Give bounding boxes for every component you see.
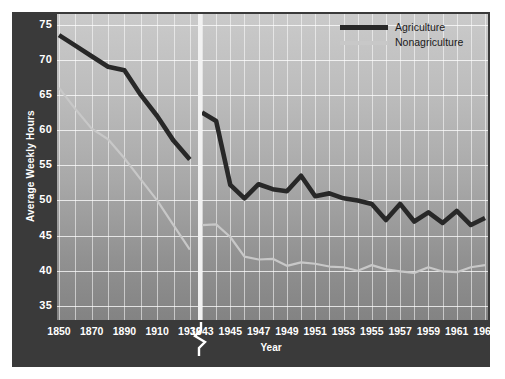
- x-axis-label: Year: [261, 342, 282, 353]
- series-line-agriculture: [202, 112, 485, 225]
- series-lines: [57, 14, 488, 320]
- y-tick-label: 65: [12, 89, 52, 100]
- chart-figure-frame: 354045505560657075 Average Weekly Hours …: [12, 12, 490, 367]
- x-tick-label: 1957: [385, 326, 415, 337]
- y-tick-label: 70: [12, 54, 52, 65]
- y-axis-label: Average Weekly Hours: [25, 110, 36, 222]
- chart-legend: AgricultureNonagriculture: [340, 22, 463, 52]
- x-tick-label: 1961: [442, 326, 472, 337]
- axis-break-zigzag-icon: [190, 322, 212, 356]
- legend-swatch-agriculture: [340, 25, 388, 30]
- y-tick-label: 35: [12, 300, 52, 311]
- x-tick-label: 1945: [215, 326, 245, 337]
- x-tick-label: 1963: [470, 326, 500, 337]
- chart-screenshot: 354045505560657075 Average Weekly Hours …: [0, 0, 505, 379]
- x-tick-label: 1955: [357, 326, 387, 337]
- legend-swatch-nonagriculture: [340, 41, 388, 45]
- series-line-nonagriculture: [202, 224, 485, 273]
- x-tick-label: 1910: [142, 326, 172, 337]
- y-tick-label: 40: [12, 265, 52, 276]
- legend-label: Agriculture: [395, 22, 445, 33]
- y-tick-label: 45: [12, 230, 52, 241]
- x-tick-label: 1890: [109, 326, 139, 337]
- x-tick-label: 1959: [413, 326, 443, 337]
- zigzag-break-path: [195, 322, 205, 356]
- x-tick-label: 1850: [44, 326, 74, 337]
- x-tick-label: 1947: [244, 326, 274, 337]
- series-line-nonagriculture: [59, 88, 190, 250]
- series-line-agriculture: [59, 35, 190, 160]
- legend-item: Nonagriculture: [340, 37, 463, 48]
- y-tick-label: 75: [12, 19, 52, 30]
- legend-item: Agriculture: [340, 22, 463, 33]
- x-tick-label: 1870: [77, 326, 107, 337]
- axis-break-band: [198, 14, 202, 320]
- x-tick-label: 1953: [329, 326, 359, 337]
- legend-label: Nonagriculture: [395, 37, 463, 48]
- x-tick-label: 1949: [272, 326, 302, 337]
- plot-area: [57, 14, 488, 320]
- x-tick-label: 1951: [300, 326, 330, 337]
